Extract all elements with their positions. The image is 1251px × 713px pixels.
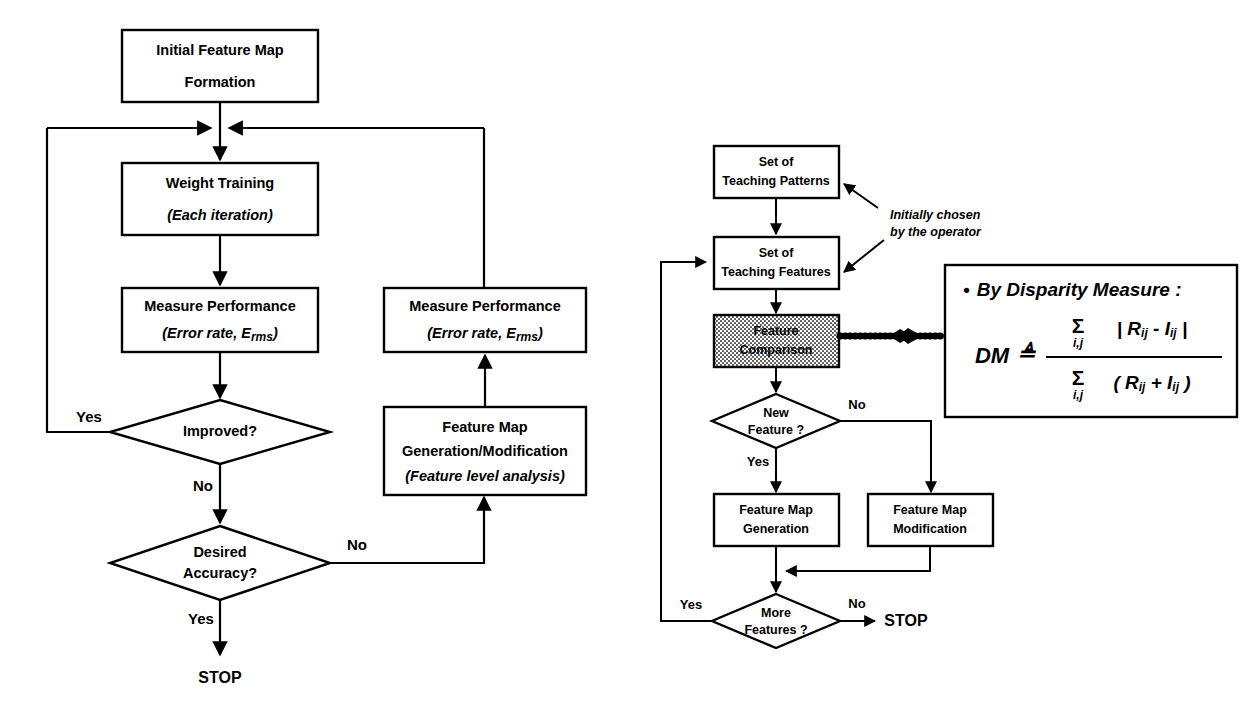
node-initial-feature-map-formation-line2: Formation	[185, 74, 256, 90]
node-desired-accuracy-decision: Desired Accuracy?	[110, 526, 330, 600]
numerator-expression: | Rij - Iij |	[1117, 318, 1187, 340]
node-weight-training: Weight Training (Each iteration)	[122, 163, 318, 235]
node-weight-training-line2: (Each iteration)	[167, 207, 273, 223]
node-teaching-patterns-line1: Set of	[759, 155, 795, 169]
node-feature-map-genmod-line3: (Feature level analysis)	[405, 468, 565, 484]
node-feature-comparison: Feature Comparison	[714, 315, 839, 367]
edge-label-new-feature-yes: Yes	[747, 454, 769, 469]
node-teaching-features-line1: Set of	[759, 246, 795, 260]
numerator-sigma-subscript: i,j	[1073, 336, 1084, 350]
annotation-line1: Initially chosen	[890, 208, 981, 222]
node-new-feature-line2: Feature ?	[748, 423, 804, 437]
node-measure-performance-left: Measure Performance (Error rate, Erms)	[122, 288, 318, 352]
node-feature-map-generation-line1: Feature Map	[739, 503, 813, 517]
node-teaching-patterns-line2: Teaching Patterns	[722, 174, 829, 188]
annotation-arrow-features	[844, 240, 884, 272]
edge-label-more-features-no: No	[848, 596, 865, 611]
node-teaching-features-line2: Teaching Features	[721, 265, 831, 279]
node-feature-map-modification-line1: Feature Map	[893, 503, 967, 517]
node-new-feature-line1: New	[763, 406, 789, 420]
annotation-arrow-patterns	[844, 184, 878, 208]
node-feature-map-genmod-line1: Feature Map	[442, 419, 528, 435]
node-feature-map-modification: Feature Map Modification	[868, 494, 993, 546]
annotation-line2: by the operator	[890, 225, 982, 239]
node-desired-accuracy-line2: Accuracy?	[183, 565, 257, 581]
node-feature-comparison-line1: Feature	[753, 324, 798, 338]
node-stop-right: STOP	[884, 612, 928, 629]
edge-accuracy-no	[330, 497, 484, 563]
node-teaching-patterns: Set of Teaching Patterns	[714, 146, 839, 198]
edge-label-improved-no: No	[193, 477, 213, 494]
edge-new-feature-no	[840, 421, 931, 492]
edge-label-accuracy-yes: Yes	[188, 610, 214, 627]
node-weight-training-line1: Weight Training	[166, 175, 274, 191]
flowchart-page: Initial Feature Map Formation Weight Tra…	[0, 0, 1251, 713]
edge-label-improved-yes: Yes	[76, 408, 102, 425]
edge-label-accuracy-no: No	[347, 536, 367, 553]
node-measure-performance-right-line1: Measure Performance	[409, 298, 561, 314]
denominator-sigma: Σ	[1072, 366, 1085, 389]
node-feature-map-genmod-line2: Generation/Modification	[402, 443, 568, 459]
node-improved-label: Improved?	[183, 423, 257, 439]
node-feature-map-generation-modification: Feature Map Generation/Modification (Fea…	[384, 407, 586, 495]
node-new-feature-decision: New Feature ?	[712, 394, 840, 448]
formula-box: •By Disparity Measure : DM ≜ Σ i,j | Rij…	[945, 265, 1237, 417]
edge-comparison-to-formula	[840, 328, 945, 344]
node-feature-map-generation: Feature Map Generation	[714, 494, 839, 546]
node-improved-decision: Improved?	[110, 400, 330, 464]
formula-lhs: DM	[975, 343, 1010, 368]
denominator-expression: ( Rij + Iij )	[1113, 372, 1190, 394]
node-measure-performance-left-line1: Measure Performance	[144, 298, 296, 314]
edge-modification-merge	[786, 546, 930, 571]
formula-heading: •By Disparity Measure :	[963, 279, 1182, 300]
node-feature-map-modification-line2: Modification	[893, 522, 967, 536]
edge-label-more-features-yes: Yes	[680, 597, 702, 612]
node-stop-left: STOP	[198, 669, 242, 686]
denominator-sigma-subscript: i,j	[1073, 388, 1084, 402]
numerator-sigma: Σ	[1072, 314, 1085, 337]
node-feature-comparison-line2: Comparison	[740, 343, 813, 357]
node-measure-performance-right: Measure Performance (Error rate, Erms)	[384, 288, 586, 352]
node-more-features-line1: More	[761, 606, 791, 620]
node-desired-accuracy-line1: Desired	[193, 544, 246, 560]
node-more-features-line2: Features ?	[744, 623, 807, 637]
annotation-initially-chosen: Initially chosen by the operator	[890, 208, 982, 239]
edge-more-features-yes-loop	[661, 262, 712, 621]
node-initial-feature-map-formation: Initial Feature Map Formation	[122, 30, 318, 102]
node-feature-map-generation-line2: Generation	[743, 522, 809, 536]
node-teaching-features: Set of Teaching Features	[714, 237, 839, 289]
node-more-features-decision: More Features ?	[712, 594, 840, 648]
node-initial-feature-map-formation-line1: Initial Feature Map	[156, 42, 283, 58]
formula-relation: ≜	[1017, 341, 1037, 366]
edge-label-new-feature-no: No	[848, 397, 865, 412]
edge-improved-yes-loop	[47, 128, 110, 432]
